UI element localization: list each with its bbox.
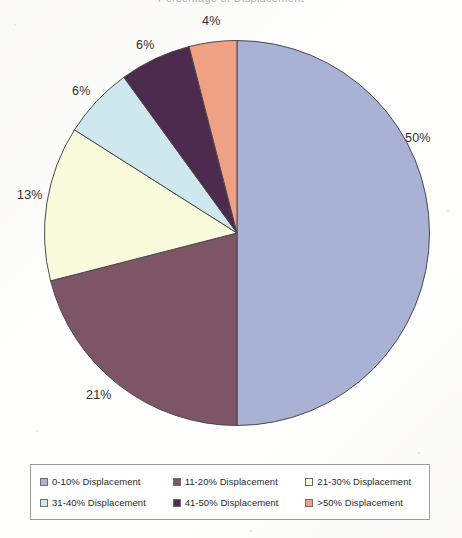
legend-item-label: 11-20% Displacement — [185, 476, 278, 487]
pie-label-over-50: 4% — [202, 14, 220, 28]
scan-speck — [418, 452, 420, 454]
legend-item[interactable]: 11-20% Displacement — [164, 471, 297, 492]
legend-item-label: 31-40% Displacement — [52, 497, 146, 508]
legend-item-label: 41-50% Displacement — [185, 497, 279, 508]
chart-page: Percentage of Displacement 50% 21% 13% 6… — [0, 0, 462, 538]
scan-speck — [36, 430, 38, 432]
pie-chart-area: 50% 21% 13% 6% 6% 4% — [0, 0, 462, 462]
pie-chart-svg — [0, 0, 462, 462]
legend-item[interactable]: 21-30% Displacement — [296, 471, 429, 492]
legend-item[interactable]: >50% Displacement — [296, 492, 429, 513]
scan-speck — [14, 24, 16, 26]
legend-swatch-icon — [40, 478, 48, 486]
legend-item[interactable]: 0-10% Displacement — [31, 471, 164, 492]
legend-swatch-icon — [173, 478, 181, 486]
scan-speck — [250, 530, 252, 532]
pie-slice — [237, 41, 429, 426]
legend-item[interactable]: 41-50% Displacement — [164, 492, 297, 513]
scan-speck — [447, 210, 449, 212]
legend-item[interactable]: 31-40% Displacement — [31, 492, 164, 513]
pie-label-11-20: 21% — [86, 388, 112, 402]
legend-swatch-icon — [305, 499, 313, 507]
pie-label-0-10: 50% — [405, 131, 431, 145]
legend-grid: 0-10% Displacement11-20% Displacement21-… — [31, 471, 429, 513]
legend-swatch-icon — [173, 499, 181, 507]
chart-legend: 0-10% Displacement11-20% Displacement21-… — [30, 464, 430, 520]
legend-swatch-icon — [40, 499, 48, 507]
legend-item-label: 21-30% Displacement — [317, 476, 411, 487]
legend-swatch-icon — [305, 478, 313, 486]
pie-label-41-50: 6% — [136, 38, 154, 52]
legend-item-label: >50% Displacement — [317, 497, 403, 508]
pie-label-31-40: 6% — [72, 84, 90, 98]
pie-slices-group — [45, 41, 430, 426]
legend-item-label: 0-10% Displacement — [52, 476, 141, 487]
pie-label-21-30: 13% — [17, 188, 43, 202]
